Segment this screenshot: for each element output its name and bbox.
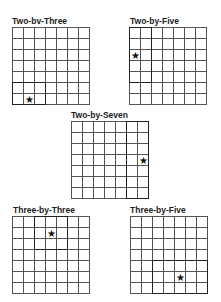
grid-cell xyxy=(138,133,149,144)
grid-cell xyxy=(35,61,46,72)
grid-cell xyxy=(116,166,127,177)
grid-cell xyxy=(68,50,79,61)
grid-cell xyxy=(186,239,197,250)
grid-cell xyxy=(141,39,152,50)
grid-cell xyxy=(68,261,79,272)
grid-cell xyxy=(196,61,207,72)
grid-cell xyxy=(141,61,152,72)
grid-cell xyxy=(127,144,138,155)
grid-cell xyxy=(196,39,207,50)
grid-cell xyxy=(131,228,142,239)
grid-cell xyxy=(116,122,127,133)
grid-cell xyxy=(163,61,174,72)
grid-cell xyxy=(130,83,141,94)
grid-cell xyxy=(83,166,94,177)
grid-cell xyxy=(116,188,127,199)
grid-cell xyxy=(46,50,57,61)
grid-cell xyxy=(13,217,24,228)
grid-cell xyxy=(153,283,164,294)
grid-cell xyxy=(68,28,79,39)
grid-cell xyxy=(131,217,142,228)
grid-cell xyxy=(57,83,68,94)
grid-cell xyxy=(185,94,196,105)
grid-cell xyxy=(24,239,35,250)
grid-cell xyxy=(46,239,57,250)
grid-cell xyxy=(35,94,46,105)
grid-cell xyxy=(164,228,175,239)
grid-cell xyxy=(152,28,163,39)
grid-cell xyxy=(131,239,142,250)
grid-cell xyxy=(131,261,142,272)
grid-cell xyxy=(57,250,68,261)
grid-cell xyxy=(24,283,35,294)
grid-cell xyxy=(164,250,175,261)
grid-cell xyxy=(163,39,174,50)
grid-cell xyxy=(94,133,105,144)
grid-cell xyxy=(24,50,35,61)
grid-cell xyxy=(186,217,197,228)
grid-cell xyxy=(68,250,79,261)
grid-cell xyxy=(13,261,24,272)
grid-cell xyxy=(175,261,186,272)
star-icon: ★ xyxy=(46,228,57,239)
panel-label: Two-by-Five xyxy=(130,17,179,26)
grid-cell xyxy=(116,133,127,144)
star-icon: ★ xyxy=(130,50,141,61)
grid-cell xyxy=(131,272,142,283)
grid-cell xyxy=(57,217,68,228)
grid-cell xyxy=(68,61,79,72)
grid-cell xyxy=(57,272,68,283)
grid-cell xyxy=(79,217,90,228)
grid-cell xyxy=(35,72,46,83)
grid-cell xyxy=(163,72,174,83)
grid-cell xyxy=(130,28,141,39)
grid-cell xyxy=(152,94,163,105)
grid-cell xyxy=(186,261,197,272)
grid-cell xyxy=(127,122,138,133)
grid-cell xyxy=(79,83,90,94)
grid-cell xyxy=(185,28,196,39)
grid-cell xyxy=(79,94,90,105)
grid-cell xyxy=(68,283,79,294)
grid-cell xyxy=(57,239,68,250)
grid-cell xyxy=(164,239,175,250)
grid-cell xyxy=(24,272,35,283)
grid-cell xyxy=(83,133,94,144)
grid-cell xyxy=(142,283,153,294)
grid-cell xyxy=(24,83,35,94)
grid-cell xyxy=(153,217,164,228)
grid-cell xyxy=(197,250,208,261)
grid-cell xyxy=(13,72,24,83)
grid-cell xyxy=(141,50,152,61)
grid-cell xyxy=(175,239,186,250)
grid-cell xyxy=(68,272,79,283)
grid-cell xyxy=(175,250,186,261)
grid-cell xyxy=(94,144,105,155)
grid-cell xyxy=(130,94,141,105)
grid-cell xyxy=(57,261,68,272)
grid-cell xyxy=(24,261,35,272)
grid-cell xyxy=(141,83,152,94)
grid-cell xyxy=(152,39,163,50)
grid-cell xyxy=(138,144,149,155)
grid-cell xyxy=(175,283,186,294)
grid-cell xyxy=(35,39,46,50)
grid-cell xyxy=(35,283,46,294)
grid-cell xyxy=(79,39,90,50)
grid-cell xyxy=(153,272,164,283)
grid-cell xyxy=(142,217,153,228)
grid-cell xyxy=(35,50,46,61)
grid-cell xyxy=(141,28,152,39)
grid-cell xyxy=(94,122,105,133)
grid-cell xyxy=(153,239,164,250)
grid-cell xyxy=(24,250,35,261)
grid-cell xyxy=(57,283,68,294)
grid-cell xyxy=(46,272,57,283)
grid-cell xyxy=(94,177,105,188)
grid-cell xyxy=(175,217,186,228)
star-icon: ★ xyxy=(175,272,186,283)
grid-cell xyxy=(83,155,94,166)
grid-cell xyxy=(105,144,116,155)
grid-cell xyxy=(174,28,185,39)
grid-cell xyxy=(72,122,83,133)
